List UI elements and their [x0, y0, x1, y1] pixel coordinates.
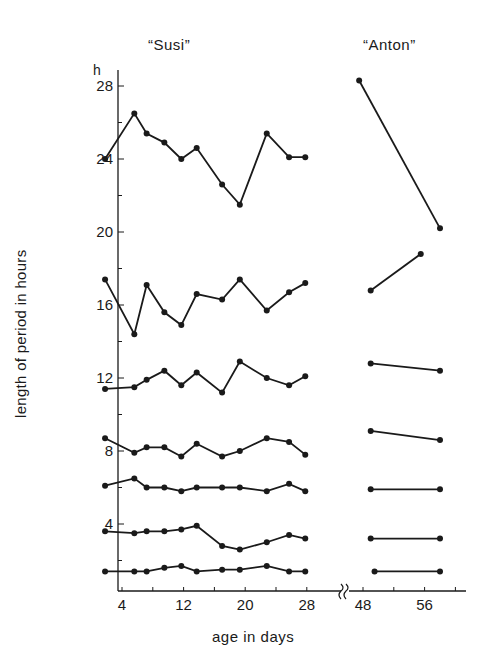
data-point [131, 568, 137, 574]
data-point [286, 382, 292, 388]
data-point [161, 309, 167, 315]
data-point [237, 448, 243, 454]
axis-break-mark [344, 584, 348, 599]
data-point [264, 307, 270, 313]
data-point [178, 563, 184, 569]
series-line [371, 431, 440, 440]
x-tick-label: 20 [237, 596, 254, 613]
data-point [131, 331, 137, 337]
data-point [178, 322, 184, 328]
data-point [194, 523, 200, 529]
data-point [194, 441, 200, 447]
series-line [371, 254, 421, 291]
data-point [286, 289, 292, 295]
data-point [144, 282, 150, 288]
data-point [264, 563, 270, 569]
data-point [302, 536, 308, 542]
data-point [131, 475, 137, 481]
data-point [302, 568, 308, 574]
data-point [102, 386, 108, 392]
data-point [437, 368, 443, 374]
x-tick-label: 4 [118, 596, 126, 613]
x-tick-label: 12 [175, 596, 192, 613]
data-point [286, 481, 292, 487]
data-point [131, 450, 137, 456]
data-point [161, 528, 167, 534]
series-line [359, 81, 440, 229]
data-point [368, 360, 374, 366]
data-point [368, 428, 374, 434]
series-line [105, 113, 305, 204]
y-tick-label: 8 [105, 442, 113, 459]
data-point [368, 536, 374, 542]
data-point [368, 486, 374, 492]
data-point [219, 390, 225, 396]
data-point [102, 568, 108, 574]
data-point [356, 78, 362, 84]
chart-plot-area: 48121620242841220284856 [0, 0, 482, 667]
data-point [237, 485, 243, 491]
data-point [219, 543, 225, 549]
data-point [302, 373, 308, 379]
y-tick-label: 20 [96, 223, 113, 240]
data-point [286, 154, 292, 160]
data-point [194, 370, 200, 376]
data-point [144, 568, 150, 574]
data-point [178, 453, 184, 459]
data-point [178, 156, 184, 162]
data-point [161, 368, 167, 374]
data-point [437, 437, 443, 443]
data-point [194, 485, 200, 491]
data-point [194, 291, 200, 297]
data-point [194, 568, 200, 574]
data-point [178, 382, 184, 388]
data-point [131, 530, 137, 536]
data-point [102, 483, 108, 489]
data-point [302, 452, 308, 458]
data-point [219, 567, 225, 573]
data-point [161, 444, 167, 450]
data-point [437, 568, 443, 574]
data-point [144, 528, 150, 534]
data-point [264, 375, 270, 381]
data-point [144, 444, 150, 450]
data-point [102, 528, 108, 534]
x-tick-label: 48 [355, 596, 372, 613]
data-point [144, 485, 150, 491]
data-point [144, 377, 150, 383]
data-point [237, 202, 243, 208]
data-point [237, 547, 243, 553]
data-point [264, 539, 270, 545]
data-point [437, 536, 443, 542]
data-point [161, 140, 167, 146]
data-point [418, 251, 424, 257]
data-point [302, 154, 308, 160]
data-point [286, 532, 292, 538]
y-tick-label: 12 [96, 369, 113, 386]
data-point [302, 280, 308, 286]
data-point [219, 182, 225, 188]
data-point [264, 488, 270, 494]
data-point [219, 485, 225, 491]
data-point [131, 110, 137, 116]
data-point [178, 526, 184, 532]
data-point [286, 568, 292, 574]
data-point [368, 287, 374, 293]
data-point [178, 488, 184, 494]
data-point [102, 276, 108, 282]
data-series [102, 78, 443, 575]
data-point [219, 453, 225, 459]
data-point [302, 488, 308, 494]
y-tick-label: 16 [96, 296, 113, 313]
data-point [194, 145, 200, 151]
data-point [437, 486, 443, 492]
data-point [219, 297, 225, 303]
y-tick-label: 28 [96, 77, 113, 94]
data-point [264, 130, 270, 136]
data-point [372, 568, 378, 574]
data-point [131, 384, 137, 390]
series-line [371, 363, 440, 370]
data-point [102, 156, 108, 162]
series-line [105, 526, 305, 550]
data-point [286, 439, 292, 445]
